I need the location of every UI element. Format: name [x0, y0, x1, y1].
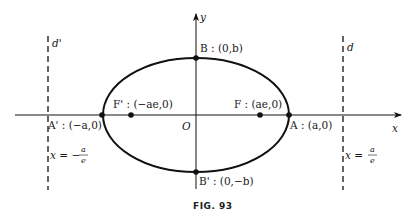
origin-label: O	[182, 120, 191, 132]
directrix-right-equation: x = a e	[345, 145, 377, 165]
directrix-left-equation: x = − a e	[50, 145, 88, 165]
point-A	[286, 112, 292, 118]
label-A: A : (a,0)	[289, 119, 332, 131]
directrix-left-name: d'	[52, 37, 62, 49]
point-B	[193, 55, 199, 61]
point-B-prime	[193, 169, 199, 175]
equation-left-lhs: x = −	[50, 149, 80, 161]
focus-F	[257, 112, 263, 118]
equation-right-den: e	[370, 156, 375, 165]
equation-left-den: e	[81, 156, 86, 165]
equation-right-lhs: x =	[345, 149, 363, 161]
point-A-prime	[99, 112, 105, 118]
equation-right-num: a	[370, 145, 375, 154]
diagram-canvas: y x O B : (0,b) B' : (0,−b) A : (a,0) A'…	[0, 0, 417, 222]
label-A-prime: A' : (−a,0)	[47, 119, 102, 131]
y-axis-label: y	[199, 11, 207, 23]
x-axis-label: x	[392, 122, 398, 134]
directrix-right-name: d	[347, 41, 354, 53]
label-B-prime: B' : (0,−b)	[199, 175, 254, 187]
label-F: F : (ae,0)	[234, 98, 282, 110]
focus-F-prime	[128, 112, 134, 118]
ellipse-figure: y x O B : (0,b) B' : (0,−b) A : (a,0) A'…	[0, 0, 417, 222]
figure-caption: FIG. 93	[193, 201, 232, 211]
label-B: B : (0,b)	[200, 42, 243, 54]
label-F-prime: F' : (−ae,0)	[113, 98, 173, 110]
equation-left-num: a	[81, 145, 86, 154]
